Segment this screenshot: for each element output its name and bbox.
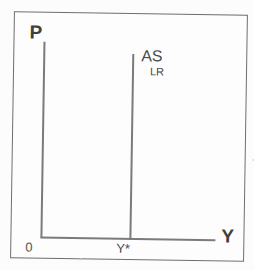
scan-speck bbox=[79, 258, 82, 260]
price-axis-label: P bbox=[29, 22, 42, 41]
potential-output-label: Y* bbox=[116, 242, 130, 255]
lras-curve-label: AS bbox=[141, 48, 163, 64]
scan-speck bbox=[253, 159, 254, 161]
scanned-figure: P Y AS LR 0 Y* bbox=[0, 0, 254, 270]
figure-frame: P Y AS LR 0 Y* bbox=[10, 11, 248, 262]
origin-label: 0 bbox=[25, 240, 32, 253]
lras-curve-subscript: LR bbox=[150, 66, 164, 77]
price-axis-line bbox=[40, 42, 45, 238]
lras-curve-line bbox=[129, 54, 134, 240]
output-axis-label: Y bbox=[221, 226, 234, 245]
